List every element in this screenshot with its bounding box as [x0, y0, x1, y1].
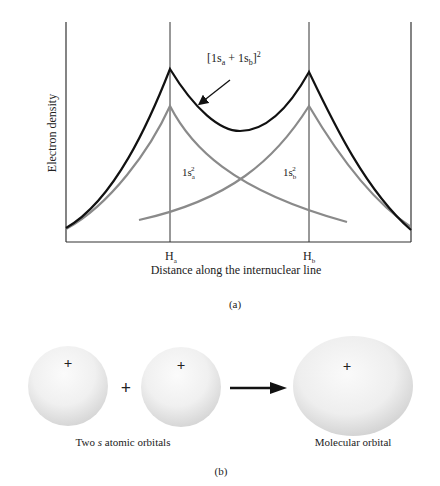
orbital-combination: + + + + Two s atomic orbitals Molecular … — [28, 336, 413, 478]
density-plot: [1sa + 1sb]2 1sa2 1sb2 Electron density … — [45, 22, 411, 311]
panel-b-caption: (b) — [215, 465, 228, 478]
curve-label-1sb: 1sb2 — [283, 165, 297, 181]
nucleus-mark-b: + — [177, 357, 186, 373]
curve-1sa-squared — [66, 106, 347, 229]
orbital-figure: [1sa + 1sb]2 1sa2 1sb2 Electron density … — [0, 0, 440, 486]
y-axis-label: Electron density — [45, 94, 59, 172]
combined-curve-label: [1sa + 1sb]2 — [207, 50, 261, 67]
panel-a-caption: (a) — [229, 298, 242, 311]
molecular-orbital-caption: Molecular orbital — [315, 436, 392, 448]
right-arrow-icon — [230, 382, 287, 394]
x-axis-label: Distance along the internuclear line — [151, 263, 322, 277]
molecular-orbital-ellipsoid — [293, 336, 413, 436]
nucleus-mark-a: + — [64, 355, 73, 371]
nucleus-mark-molecular: + — [343, 358, 352, 374]
label-pointer-arrow — [202, 80, 230, 102]
curve-label-1sa: 1sa2 — [182, 165, 196, 181]
atomic-orbitals-caption: Two s atomic orbitals — [76, 436, 171, 448]
curve-combined-squared — [66, 69, 411, 230]
plus-sign: + — [121, 378, 131, 398]
